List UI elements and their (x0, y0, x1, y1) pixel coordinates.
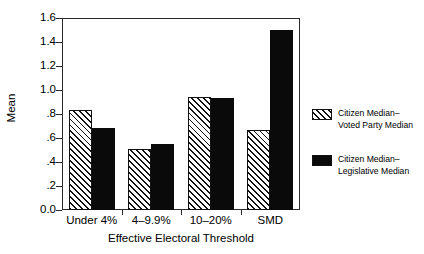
y-tick-label: .2 (28, 180, 56, 192)
y-tick-mark (56, 138, 62, 139)
bar-legislative-median (151, 144, 174, 210)
hatched-swatch (312, 109, 332, 120)
y-tick-mark (56, 210, 62, 211)
bar-voted-party-median (128, 149, 151, 210)
x-tick-label: SMD (230, 214, 310, 226)
y-tick-mark (56, 18, 62, 19)
bar-voted-party-median (69, 110, 92, 210)
bar-legislative-median (211, 98, 234, 210)
x-axis-title: Effective Electoral Threshold (62, 232, 300, 244)
legend-entry: Citizen Median– Voted Party Median (312, 108, 424, 134)
legend-label: Citizen Median– Legislative Median (338, 154, 424, 177)
y-tick-mark (56, 90, 62, 91)
bar-legislative-median (92, 128, 115, 210)
bar-chart-figure: Mean 1.61.41.21.0.8.6.4.20.0 Effective E… (0, 0, 424, 254)
y-tick-mark (56, 162, 62, 163)
y-tick-mark (56, 42, 62, 43)
bar-voted-party-median (188, 97, 211, 210)
y-axis-title: Mean (5, 73, 17, 143)
y-tick-label: .8 (28, 108, 56, 120)
bar-voted-party-median (247, 130, 270, 210)
y-tick-mark (56, 66, 62, 67)
legend-entry: Citizen Median– Legislative Median (312, 154, 424, 180)
legend-label: Citizen Median– Voted Party Median (338, 108, 424, 131)
chart-legend: Citizen Median– Voted Party MedianCitize… (312, 108, 424, 200)
y-tick-label: 1.2 (28, 60, 56, 72)
bar-legislative-median (270, 30, 293, 210)
bars-layer (62, 18, 300, 210)
y-tick-label: 1.4 (28, 36, 56, 48)
y-tick-label: .4 (28, 156, 56, 168)
y-tick-label: 1.6 (28, 12, 56, 24)
y-tick-label: 1.0 (28, 84, 56, 96)
solid-swatch (312, 155, 332, 166)
y-tick-mark (56, 186, 62, 187)
y-tick-mark (56, 114, 62, 115)
y-tick-label: .6 (28, 132, 56, 144)
